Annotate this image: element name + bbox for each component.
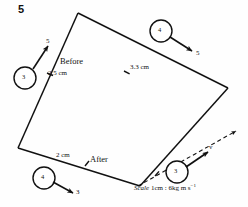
scale-note: Scale 1cm : 6kg m s−1: [134, 183, 196, 192]
mass-label-4-top: 4: [158, 27, 161, 34]
body-incoming-mass-4: [150, 20, 192, 51]
velocity-arrow-3-bottom: [186, 152, 208, 167]
velocity-symbol: v: [209, 143, 213, 151]
body-outgoing-mass-4: [33, 167, 73, 193]
label-after: After: [90, 155, 108, 164]
mass-label-4-bottom: 4: [41, 174, 44, 181]
mass-label-3-left: 3: [22, 74, 25, 81]
arrow-label-3-left: 5: [46, 38, 50, 45]
label-before: Before: [60, 57, 83, 66]
arrow-label-4-bottom: 3: [76, 189, 80, 196]
tick-top-right-side: [124, 71, 130, 74]
label-side-after: 2 cm: [56, 152, 70, 159]
scale-exponent: −1: [191, 183, 196, 188]
velocity-arrow-4-top: [170, 37, 192, 51]
label-side-top-right: 3.3 cm: [130, 64, 149, 71]
velocity-arrow-3-left: [33, 46, 48, 69]
label-side-before: 2.5 cm: [48, 70, 67, 77]
arrow-label-3-bottom: v: [209, 144, 213, 151]
body-incoming-mass-3: [14, 46, 48, 89]
velocity-arrow-4-bottom: [53, 182, 73, 193]
question-number: 5: [18, 4, 24, 15]
scale-value: 1cm : 6kg m s: [151, 184, 191, 192]
arrow-label-4-top: 5: [196, 50, 200, 57]
tick-after-side: [85, 161, 89, 166]
vector-diagram-figure: 5 3 4 4 3 5 5 3 v Before 2.5 cm 3.3 cm 2…: [0, 0, 248, 207]
body-outgoing-mass-3: [166, 152, 208, 183]
diagram-canvas: [0, 0, 248, 207]
scale-word: Scale: [134, 184, 149, 192]
mass-label-3-bottom: 3: [174, 168, 177, 175]
